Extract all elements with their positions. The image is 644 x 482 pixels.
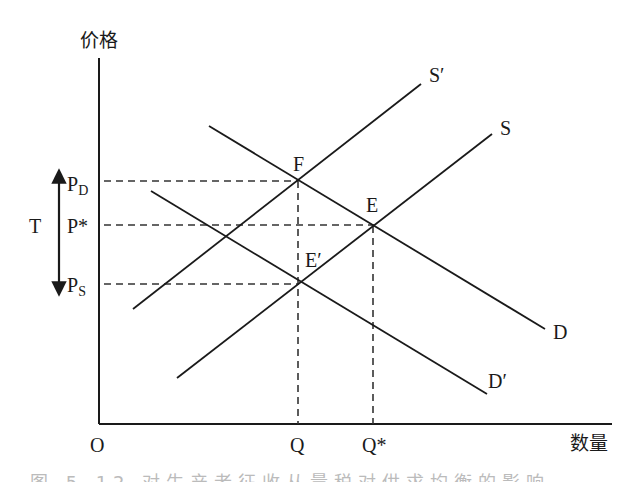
supply-shifted-label: S′ (429, 64, 445, 86)
pd-label-main: P (67, 173, 78, 195)
demand-label: D (553, 321, 567, 343)
point-e-prime-label: E′ (305, 249, 322, 271)
demand-curve (209, 126, 545, 329)
x-axis-label: 数量 (570, 432, 608, 454)
pstar-label: P* (67, 215, 88, 237)
point-f-label: F (293, 153, 304, 175)
demand-curve-shifted (151, 191, 487, 394)
origin-label: O (90, 434, 104, 456)
supply-curve (177, 134, 492, 378)
ps-label-sub: S (78, 284, 86, 299)
figure-caption: 图 5-12 对生产者征收从量税对供求均衡的影响 (30, 472, 630, 482)
point-e-label: E (366, 194, 378, 216)
qstar-label: Q* (362, 434, 386, 456)
supply-label: S (500, 117, 511, 139)
y-axis-label: 价格 (80, 29, 118, 51)
ps-label: PS (67, 274, 86, 299)
pd-label-sub: D (78, 183, 88, 198)
demand-shifted-label: D′ (488, 370, 507, 392)
pd-label: PD (67, 173, 88, 198)
diagram-canvas: 价格 数量 O S′ S D D′ F E E′ PD P* PS T Q Q*… (0, 0, 644, 482)
q-label: Q (290, 434, 305, 456)
tax-label: T (29, 215, 41, 237)
ps-label-main: P (67, 274, 78, 296)
